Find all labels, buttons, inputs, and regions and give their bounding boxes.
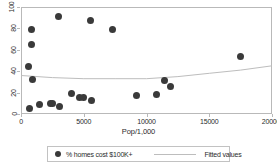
- y-tick-text: 60: [10, 46, 17, 53]
- legend-entry-fitted: Fitted values: [132, 151, 241, 158]
- y-tick-mark: [17, 93, 20, 94]
- x-tick-label: 5000: [76, 118, 91, 125]
- x-tick-mark: [84, 114, 85, 117]
- x-tick-mark: [21, 114, 22, 117]
- legend-entry-scatter: % homes cost $100K+: [48, 151, 132, 158]
- data-point: [161, 77, 168, 84]
- x-tick-mark: [147, 114, 148, 117]
- y-tick-label: 100: [0, 3, 17, 11]
- data-point: [49, 100, 56, 107]
- y-tick-text: 40: [10, 67, 17, 74]
- y-tick-text: 80: [10, 25, 17, 32]
- y-tick-mark: [17, 114, 20, 115]
- x-axis-title: Pop/1,000: [0, 127, 277, 136]
- y-tick-text: 20: [10, 89, 17, 96]
- y-tick-mark: [17, 7, 20, 8]
- y-tick-mark: [17, 28, 20, 29]
- legend-label-scatter: % homes cost $100K+: [66, 151, 132, 158]
- y-tick-text: 100: [8, 1, 15, 12]
- legend-marker-circle-icon: [55, 151, 61, 157]
- legend-label-fitted: Fitted values: [204, 151, 241, 158]
- y-tick-label: 80: [0, 24, 17, 32]
- legend-line-icon: [154, 154, 196, 155]
- scatter-chart: 020406080100 05000100001500020000 Pop/1,…: [0, 0, 277, 164]
- y-tick-label: 60: [0, 46, 17, 54]
- y-tick-label: 40: [0, 67, 17, 75]
- y-tick-mark: [17, 71, 20, 72]
- data-point: [28, 26, 35, 33]
- y-tick-label: 0: [0, 110, 17, 118]
- y-tick-label: 20: [0, 89, 17, 97]
- data-point: [237, 53, 244, 60]
- x-tick-mark: [209, 114, 210, 117]
- data-point: [167, 83, 174, 90]
- y-tick-mark: [17, 50, 20, 51]
- x-tick-mark: [272, 114, 273, 117]
- x-tick-label: 0: [19, 118, 23, 125]
- plot-area: [21, 7, 272, 114]
- x-tick-label: 10000: [137, 118, 155, 125]
- data-point: [56, 103, 63, 110]
- data-point: [88, 97, 95, 104]
- x-tick-label: 20000: [262, 118, 277, 125]
- x-tick-label: 15000: [200, 118, 218, 125]
- chart-legend: % homes cost $100K+ Fitted values: [47, 146, 230, 162]
